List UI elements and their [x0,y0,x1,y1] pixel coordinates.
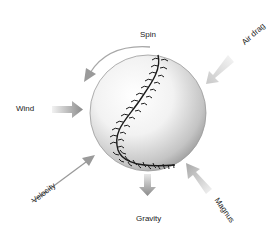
gravity-label: Gravity [136,214,161,223]
air-drag-arrow-icon [206,55,234,84]
baseball-forces-diagram: Spin Air drag Wind Velocity Gravity Magn… [0,0,280,246]
wind-label: Wind [16,104,34,113]
spin-label: Spin [140,30,156,39]
magnus-arrow-icon [186,163,212,194]
wind-arrow-icon [52,101,83,118]
baseball-icon [90,55,206,171]
gravity-arrow-icon [139,174,156,196]
